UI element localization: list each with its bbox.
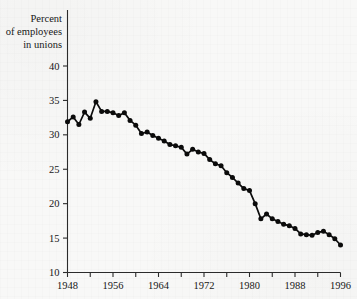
y-tick-label-20: 20 [49,198,60,209]
y-axis-title-line-3: in unions [23,39,62,50]
data-point [173,143,178,148]
x-tick-label-1972: 1972 [194,280,215,291]
data-point [253,201,258,206]
union-percent-series-line [68,102,341,245]
data-point [241,186,246,191]
data-point [65,119,70,124]
data-point [207,157,212,162]
data-point [287,223,292,228]
y-tick-label-10: 10 [49,267,60,278]
data-point [190,147,195,152]
data-point [150,133,155,138]
y-axis-title-line-1: Percent [31,13,63,24]
data-point [293,226,298,231]
data-point [332,236,337,241]
data-point [247,188,252,193]
union-membership-line-chart: Percent of employees in unions 101520253… [0,0,357,299]
x-axis-tick-labels: 1948195619641972198019881996 [57,280,351,291]
union-percent-data-points [65,99,343,247]
data-point [133,123,138,128]
data-point [258,216,263,221]
data-point [139,131,144,136]
data-point [88,116,93,121]
y-axis-tick-labels: 10152025303540 [49,61,60,279]
data-point [327,232,332,237]
data-point [93,99,98,104]
y-tick-label-35: 35 [49,95,60,106]
data-point [315,230,320,235]
y-axis-title: Percent of employees in unions [6,13,62,50]
data-point [230,175,235,180]
data-point [213,161,218,166]
data-point [122,110,127,115]
x-tick-label-1956: 1956 [103,280,124,291]
data-point [162,139,167,144]
data-point [264,211,269,216]
data-point [321,229,326,234]
data-point [76,122,81,127]
y-tick-label-15: 15 [49,233,60,244]
data-point [338,242,343,247]
data-point [116,113,121,118]
data-point [236,181,241,186]
data-point [224,170,229,175]
data-point [82,110,87,115]
x-tick-label-1988: 1988 [285,280,306,291]
data-point [71,114,76,119]
x-tick-label-1964: 1964 [148,280,170,291]
data-point [310,233,315,238]
data-point [111,110,116,115]
x-tick-label-1996: 1996 [330,280,351,291]
y-axis-ticks [63,66,68,273]
y-axis-title-line-2: of employees [6,26,62,37]
x-tick-label-1980: 1980 [239,280,260,291]
y-tick-label-25: 25 [49,164,60,175]
data-point [179,145,184,150]
data-point [196,150,201,155]
data-point [304,232,309,237]
data-point [156,136,161,141]
data-point [184,152,189,157]
data-point [167,142,172,147]
data-point [128,118,133,123]
chart-canvas: Percent of employees in unions 101520253… [0,0,357,299]
data-point [275,219,280,224]
data-point [219,163,224,168]
data-point [298,231,303,236]
data-point [270,216,275,221]
data-point [105,109,110,114]
y-tick-label-30: 30 [49,129,60,140]
data-point [99,109,104,114]
x-axis-ticks [68,273,341,278]
data-point [145,130,150,135]
x-tick-label-1948: 1948 [57,280,78,291]
data-point [281,222,286,227]
y-tick-label-40: 40 [49,61,60,72]
data-point [202,151,207,156]
